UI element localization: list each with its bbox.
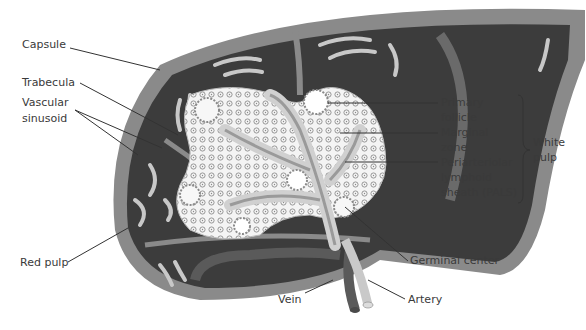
label-pals-3: sheath (PALS) — [441, 186, 517, 199]
label-capsule: Capsule — [22, 38, 66, 51]
label-vascular-sinusoid-1: Vascular — [22, 96, 69, 109]
label-primary-follicle-2: follicle — [441, 111, 477, 124]
label-pals-1: Periarteriolar — [441, 156, 513, 169]
label-germinal-center: Germinal center — [410, 254, 500, 267]
label-vascular-sinusoid-2: sinusoid — [22, 112, 67, 125]
label-pals-2: lymphoid — [441, 171, 492, 184]
label-artery: Artery — [408, 293, 443, 306]
label-trabecula: Trabecula — [21, 76, 75, 89]
label-white-pulp-1: White — [533, 136, 565, 149]
spleen-diagram: Capsule Trabecula Vascular sinusoid Red … — [0, 0, 586, 330]
label-white-pulp-2: pulp — [533, 151, 557, 164]
label-marginal-zone-2: zone — [441, 141, 467, 154]
diagram-canvas: Capsule Trabecula Vascular sinusoid Red … — [0, 0, 586, 330]
label-primary-follicle-1: Primary — [441, 96, 484, 109]
label-marginal-zone-1: Marginal — [441, 126, 488, 139]
label-vein: Vein — [278, 293, 301, 306]
label-red-pulp: Red pulp — [20, 256, 68, 269]
